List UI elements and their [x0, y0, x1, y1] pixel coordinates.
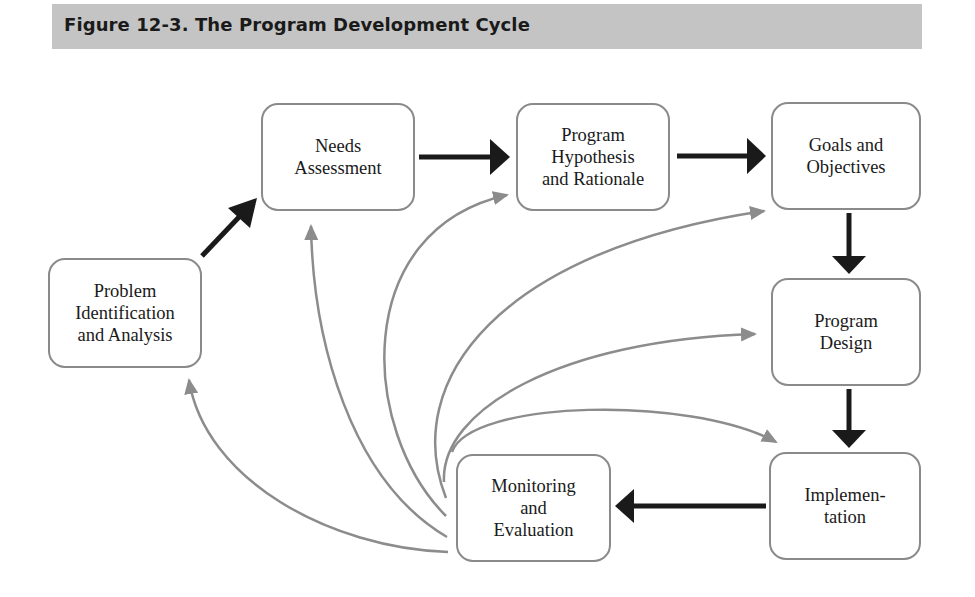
node-program-design: Program Design: [771, 278, 921, 386]
node-problem-identification: Problem Identification and Analysis: [48, 258, 202, 368]
arrow-problem-to-needs: [202, 198, 257, 256]
feedback-to-needs: [311, 226, 447, 537]
arrow-implementation-to-monitoring: [615, 489, 766, 523]
node-label: Monitoring and Evaluation: [491, 475, 575, 541]
node-goals-objectives: Goals and Objectives: [771, 102, 921, 210]
arrow-needs-to-hypothesis: [419, 139, 510, 175]
node-label: Program Design: [814, 310, 878, 354]
node-program-hypothesis: Program Hypothesis and Rationale: [516, 103, 670, 211]
node-needs-assessment: Needs Assessment: [261, 103, 415, 211]
node-implementation: Implemen- tation: [769, 452, 921, 560]
feedback-to-implementation: [452, 410, 776, 452]
node-label: Needs Assessment: [294, 135, 381, 179]
node-label: Problem Identification and Analysis: [75, 280, 175, 346]
arrow-goals-to-design: [832, 213, 866, 274]
arrow-hypothesis-to-goals: [677, 138, 766, 174]
node-monitoring-evaluation: Monitoring and Evaluation: [456, 454, 611, 562]
arrow-design-to-implementation: [832, 389, 866, 448]
node-label: Program Hypothesis and Rationale: [542, 124, 644, 190]
node-label: Goals and Objectives: [806, 134, 885, 178]
node-label: Implemen- tation: [804, 484, 885, 528]
